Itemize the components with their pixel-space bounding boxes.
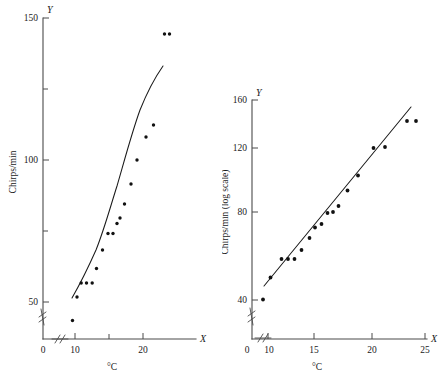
x-axis-end-label-linear: X — [199, 333, 207, 344]
data-point — [320, 222, 324, 226]
y-tick-label-160: 160 — [233, 95, 248, 105]
y-tick-label-150: 150 — [24, 13, 39, 23]
x-tick-label-20: 20 — [138, 345, 148, 355]
data-point — [331, 210, 335, 214]
fitted-curve-linear — [72, 66, 163, 298]
data-point — [135, 158, 138, 161]
data-point — [115, 222, 118, 225]
x-ticks-linear — [75, 333, 143, 339]
data-point — [261, 298, 265, 302]
data-point — [123, 202, 126, 205]
data-point — [118, 216, 121, 219]
y-tick-label-50: 50 — [29, 297, 39, 307]
data-point — [313, 226, 317, 230]
data-point — [129, 182, 132, 185]
data-point — [111, 232, 114, 235]
data-point — [356, 174, 360, 178]
data-point — [326, 211, 330, 215]
y-axis-end-label-linear: Y — [47, 4, 54, 15]
y-axis-end-label-log: Y — [256, 87, 263, 98]
x-ticks-log — [268, 333, 425, 339]
y-ticks-linear — [43, 18, 49, 302]
y-ticks-log — [252, 100, 258, 300]
y-axis-title-log: Chirps/min (log scale) — [222, 170, 231, 255]
data-point — [71, 319, 74, 322]
x-axis-end-label-log: X — [430, 333, 438, 344]
y-tick-label-40: 40 — [238, 295, 248, 305]
data-point — [75, 295, 78, 298]
data-point — [414, 119, 418, 123]
data-point — [286, 257, 290, 261]
data-point — [269, 276, 273, 280]
data-point — [168, 32, 171, 35]
data-point — [405, 119, 409, 123]
data-point — [383, 145, 387, 149]
figure-container: 150 100 50 0 10 20 Y X Chirps/min °C — [0, 0, 444, 377]
y-tick-label-100: 100 — [24, 155, 39, 165]
data-point — [337, 204, 341, 208]
data-point — [80, 281, 83, 284]
x-tick-label-15: 15 — [309, 345, 319, 355]
x-tick-label-10: 10 — [70, 345, 80, 355]
x-tick-label-20: 20 — [367, 345, 377, 355]
x-axis-break-zigzag — [52, 335, 68, 343]
data-point — [152, 123, 155, 126]
data-point — [106, 232, 109, 235]
data-point — [280, 257, 284, 261]
chart-panel-log: 160 120 80 40 0 10 15 20 25 Y X Chirps/m… — [222, 0, 444, 377]
data-point — [163, 32, 166, 35]
data-point — [95, 267, 98, 270]
data-point — [101, 248, 104, 251]
x-unit-label-linear: °C — [107, 362, 117, 372]
axes-log — [252, 100, 427, 339]
data-point — [308, 236, 312, 240]
data-point — [85, 281, 88, 284]
y-tick-label-80: 80 — [238, 207, 248, 217]
x-tick-label-10: 10 — [264, 345, 274, 355]
y-axis-title-linear: Chirps/min — [8, 150, 18, 193]
scatter-points-log — [261, 119, 418, 301]
x-tick-label-0: 0 — [245, 345, 250, 355]
chart-panel-linear: 150 100 50 0 10 20 Y X Chirps/min °C — [0, 0, 222, 377]
y-tick-label-120: 120 — [233, 143, 248, 153]
data-point — [293, 257, 297, 261]
data-point — [144, 135, 147, 138]
data-point — [346, 189, 350, 193]
data-point — [91, 281, 94, 284]
x-axis-break-zigzag — [255, 334, 271, 342]
x-unit-label-log: °C — [312, 362, 322, 372]
data-point — [300, 248, 304, 252]
fitted-line-log — [264, 107, 411, 286]
data-point — [372, 146, 376, 150]
x-tick-label-25: 25 — [420, 345, 430, 355]
x-tick-label-0: 0 — [41, 345, 46, 355]
